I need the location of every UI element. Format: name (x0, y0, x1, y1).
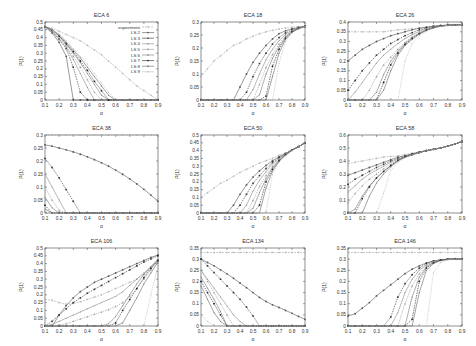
x-tick-label: 0.1 (345, 103, 352, 108)
y-tick-label: 0.1 (36, 82, 43, 87)
y-tick-label: 0.2 (192, 179, 199, 184)
y-axis-label: P(1) (18, 56, 24, 66)
x-tick-label: 0.1 (42, 329, 49, 334)
x-tick-label: 0.4 (387, 329, 394, 334)
x-tick-label: 0.4 (237, 216, 244, 221)
x-tick-label: 0.6 (416, 103, 423, 108)
x-tick-label: 0.7 (276, 216, 283, 221)
y-tick-label: 0.2 (192, 279, 199, 284)
subplot-title: ECA 146 (394, 238, 416, 244)
y-tick-label: 0.1 (192, 72, 199, 77)
y-tick-label: 0.35 (190, 156, 200, 161)
legend-label: LS 3 (131, 36, 141, 41)
legend-label: LS 8 (131, 64, 141, 69)
y-tick-label: 0 (40, 211, 43, 216)
x-tick-label: 0.3 (373, 329, 380, 334)
subplot-eca-134: ECA 1340.10.20.30.40.50.60.70.80.900.050… (174, 238, 309, 342)
x-tick-label: 0.5 (250, 216, 257, 221)
x-tick-label: 0.6 (112, 329, 119, 334)
y-tick-label: 0.3 (36, 277, 43, 282)
subplot-title: ECA 106 (91, 238, 113, 244)
chart-grid: ECA 60.10.20.30.40.50.60.70.80.900.050.1… (0, 0, 476, 346)
y-tick-label: 0.05 (190, 312, 200, 317)
subplot-eca-26: ECA 260.10.20.30.40.50.60.70.80.900.050.… (321, 12, 466, 116)
y-tick-label: 0.15 (34, 172, 44, 177)
x-tick-label: 0.7 (276, 329, 283, 334)
x-axis-label: α (252, 110, 255, 116)
y-tick-label: 0.3 (36, 133, 43, 138)
y-tick-label: 0.1 (192, 301, 199, 306)
y-tick-label: 0.1 (36, 185, 43, 190)
y-axis-label: P(1) (321, 169, 327, 179)
x-tick-label: 0.4 (84, 329, 91, 334)
y-tick-label: 0.25 (34, 146, 44, 151)
x-axis-label: α (404, 223, 407, 229)
x-tick-label: 0.6 (112, 103, 119, 108)
x-tick-label: 0.6 (263, 103, 270, 108)
legend-label: experiment (118, 25, 140, 30)
y-tick-label: 0.3 (339, 257, 346, 262)
x-tick-label: 0.5 (98, 103, 105, 108)
x-tick-label: 0.3 (70, 329, 77, 334)
x-tick-label: 0.8 (141, 329, 148, 334)
x-tick-label: 0.2 (359, 103, 366, 108)
y-tick-label: 0.25 (34, 285, 44, 290)
subplot-eca-50: ECA 500.10.20.30.40.50.60.70.80.900.050.… (174, 125, 309, 229)
y-tick-label: 0.05 (34, 90, 44, 95)
y-tick-label: 0.4 (36, 261, 43, 266)
y-axis-label: P(1) (174, 56, 180, 66)
y-tick-label: 0.05 (337, 88, 347, 93)
y-tick-label: 0.45 (34, 27, 44, 32)
x-tick-label: 0.4 (387, 103, 394, 108)
x-tick-label: 0.3 (224, 329, 231, 334)
legend-label: LS 2 (131, 30, 141, 35)
y-tick-label: 0.3 (339, 39, 346, 44)
y-tick-label: 0.3 (192, 164, 199, 169)
x-axis-label: α (404, 110, 407, 116)
plot-frame (45, 135, 158, 213)
x-tick-label: 0.8 (141, 103, 148, 108)
y-tick-label: 0.4 (192, 148, 199, 153)
x-tick-label: 0.4 (84, 103, 91, 108)
x-tick-label: 0.1 (42, 103, 49, 108)
x-tick-label: 0.6 (263, 329, 270, 334)
y-tick-label: 0.45 (34, 253, 44, 258)
y-tick-label: 0 (40, 324, 43, 329)
subplot-eca-18: ECA 180.10.20.30.40.50.60.70.80.900.050.… (174, 12, 309, 116)
x-tick-label: 0.9 (459, 329, 466, 334)
y-tick-label: 0 (196, 98, 199, 103)
y-tick-label: 0.3 (192, 257, 199, 262)
x-tick-label: 0.5 (402, 103, 409, 108)
y-axis-label: P(1) (18, 282, 24, 292)
y-tick-label: 0.3 (36, 51, 43, 56)
x-tick-label: 0.7 (430, 329, 437, 334)
x-tick-label: 0.2 (211, 103, 218, 108)
x-tick-label: 0.9 (302, 216, 309, 221)
y-tick-label: 0.1 (36, 308, 43, 313)
y-axis-label: P(1) (18, 169, 24, 179)
x-tick-label: 0.9 (155, 103, 162, 108)
x-tick-label: 0.5 (98, 216, 105, 221)
y-tick-label: 0.15 (190, 290, 200, 295)
y-tick-label: 0.15 (190, 187, 200, 192)
y-tick-label: 0.15 (190, 59, 200, 64)
x-tick-label: 0.4 (84, 216, 91, 221)
y-tick-label: 0 (40, 98, 43, 103)
x-tick-label: 0.2 (56, 329, 63, 334)
y-axis-label: P(1) (321, 56, 327, 66)
y-tick-label: 0.2 (36, 66, 43, 71)
y-tick-label: 0.4 (339, 159, 346, 164)
x-axis-label: α (252, 336, 255, 342)
x-tick-label: 0.4 (387, 216, 394, 221)
x-tick-label: 0.3 (373, 216, 380, 221)
y-tick-label: 0.2 (339, 185, 346, 190)
legend-label: LS 5 (131, 47, 141, 52)
legend-label: LS 9 (131, 69, 141, 74)
subplot-title: ECA 6 (94, 12, 110, 18)
y-tick-label: 0.25 (190, 172, 200, 177)
x-tick-label: 0.2 (359, 329, 366, 334)
x-tick-label: 0.2 (211, 216, 218, 221)
y-tick-label: 0.35 (337, 246, 347, 251)
y-tick-label: 0.15 (34, 300, 44, 305)
subplot-title: ECA 38 (92, 125, 111, 131)
